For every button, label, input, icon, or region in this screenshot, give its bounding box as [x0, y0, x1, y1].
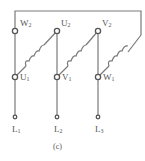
diagram-caption: (c) [53, 143, 62, 151]
label-w2: W2 [20, 19, 32, 28]
label-l1: L1 [12, 125, 21, 134]
terminal-w2 [12, 28, 17, 33]
terminal-u1 [12, 74, 17, 79]
terminal-l1 [13, 115, 17, 119]
terminal-v1 [54, 74, 59, 79]
terminal-u2 [54, 28, 59, 33]
terminal-l3 [96, 115, 100, 119]
label-l3: L3 [95, 125, 104, 134]
terminal-l2 [55, 115, 59, 119]
label-v2: V2 [102, 19, 112, 28]
coil-w [108, 46, 128, 66]
terminal-w1 [95, 74, 100, 79]
label-u1: U1 [20, 73, 30, 82]
bus-frame [15, 11, 141, 35]
coil-u [25, 45, 44, 66]
terminal-v2 [95, 28, 100, 33]
label-v1: V1 [62, 73, 72, 82]
coil-v [67, 45, 86, 66]
label-w1: W1 [103, 73, 115, 82]
label-l2: L2 [54, 125, 63, 134]
label-u2: U2 [61, 19, 71, 28]
